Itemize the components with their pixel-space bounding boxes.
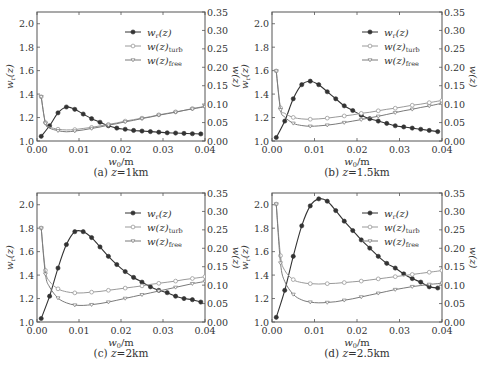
filled-circle-marker <box>81 112 85 116</box>
triangle-marker <box>410 285 414 288</box>
series-free <box>39 96 207 133</box>
filled-circle-marker <box>39 134 43 138</box>
y-right-tick-label: 0.30 <box>444 25 465 36</box>
filled-circle-marker <box>368 30 372 34</box>
chart-panel-a: 0.000.010.020.030.041.01.21.41.61.82.00.… <box>4 7 242 179</box>
filled-circle-marker <box>64 243 68 247</box>
legend-label-wr: wr(z) <box>147 27 172 40</box>
filled-circle-marker <box>199 300 203 304</box>
x-tick-label: 0.02 <box>110 325 131 336</box>
legend: wr(z)w(z)turbw(z)free <box>125 27 183 68</box>
triangle-marker <box>393 111 397 114</box>
y-right-tick-label: 0.25 <box>207 43 228 54</box>
y-right-tick-label: 0.05 <box>444 117 465 128</box>
filled-circle-marker <box>291 97 295 101</box>
open-circle-marker <box>123 286 127 290</box>
filled-circle-marker <box>182 296 186 300</box>
plot-frame <box>37 193 205 322</box>
plot-frame <box>272 12 442 141</box>
y-left-tick-label: 1.8 <box>19 223 34 234</box>
y-left-tick-label: 1.8 <box>254 42 269 53</box>
panel-caption: (d) z=2.5km <box>324 347 390 359</box>
legend-label-free: w(z)free <box>384 55 419 68</box>
x-tick-label: 0.01 <box>68 144 89 155</box>
filled-circle-marker <box>393 124 397 128</box>
series-wr <box>274 79 440 139</box>
panel-caption: (a) z=1km <box>93 166 148 178</box>
open-circle-marker <box>191 277 195 281</box>
figure-2x2-grid: 0.000.010.020.030.041.01.21.41.61.82.00.… <box>0 0 480 367</box>
filled-circle-marker <box>56 111 60 115</box>
x-tick-label: 0.03 <box>152 144 173 155</box>
triangle-marker <box>427 105 431 108</box>
y-right-tick-label: 0.10 <box>444 99 465 110</box>
open-circle-marker <box>174 279 178 283</box>
triangle-marker <box>342 121 346 124</box>
y-left-tick-label: 2.0 <box>254 199 269 210</box>
chart-panel-c: 0.000.010.020.030.041.01.21.41.61.82.00.… <box>4 188 242 360</box>
y-right-tick-label: 0.00 <box>444 136 465 147</box>
triangle-marker <box>90 303 94 306</box>
y-right-tick-label: 0.10 <box>444 280 465 291</box>
y-right-tick-label: 0.05 <box>207 117 228 128</box>
open-circle-marker <box>325 282 329 286</box>
triangle-marker <box>342 299 346 302</box>
triangle-marker <box>410 108 414 111</box>
filled-circle-marker <box>148 285 152 289</box>
y-right-tick-label: 0.00 <box>444 317 465 328</box>
y-right-tick-label: 0.20 <box>444 62 465 73</box>
open-circle-marker <box>427 101 431 105</box>
triangle-marker <box>393 288 397 291</box>
y-left-tick-label: 1.6 <box>19 65 34 76</box>
filled-circle-marker <box>283 288 287 292</box>
open-circle-marker <box>291 278 295 282</box>
x-tick-label: 0.03 <box>389 325 410 336</box>
filled-circle-marker <box>402 125 406 129</box>
filled-circle-marker <box>308 204 312 208</box>
filled-circle-marker <box>419 127 423 131</box>
triangle-marker <box>308 125 312 128</box>
y-right-tick-label: 0.30 <box>207 25 228 36</box>
open-circle-marker <box>203 275 207 279</box>
filled-circle-marker <box>325 90 329 94</box>
y-right-tick-label: 0.35 <box>207 188 228 199</box>
filled-circle-marker <box>317 83 321 87</box>
filled-circle-marker <box>427 128 431 132</box>
triangle-marker <box>325 301 329 304</box>
open-circle-marker <box>410 273 414 277</box>
open-circle-marker <box>342 281 346 285</box>
y-left-axis-label: wr(z) <box>4 64 17 89</box>
y-left-tick-label: 1.4 <box>19 270 34 281</box>
legend-label-turb: w(z)turb <box>147 222 183 235</box>
open-circle-marker <box>157 281 161 285</box>
triangle-marker <box>123 297 127 300</box>
filled-circle-marker <box>342 104 346 108</box>
open-circle-marker <box>359 279 363 283</box>
open-circle-marker <box>73 291 77 295</box>
y-right-tick-label: 0.20 <box>444 243 465 254</box>
open-circle-marker <box>279 254 283 258</box>
legend-label-turb: w(z)turb <box>147 41 183 54</box>
y-left-tick-label: 1.8 <box>254 223 269 234</box>
open-circle-marker <box>140 284 144 288</box>
filled-circle-marker <box>300 224 304 228</box>
triangle-marker <box>73 304 77 307</box>
filled-circle-marker <box>199 132 203 136</box>
triangle-marker <box>291 122 295 125</box>
filled-circle-marker <box>90 235 94 239</box>
filled-circle-marker <box>274 135 278 139</box>
triangle-marker <box>131 59 135 62</box>
chart-canvas: 0.000.010.020.030.041.01.21.41.61.82.00.… <box>0 0 480 367</box>
series-line <box>276 204 442 303</box>
triangle-marker <box>73 130 77 133</box>
x-tick-label: 0.03 <box>389 144 410 155</box>
plot-frame <box>272 193 442 322</box>
y-left-axis-label: wr(z) <box>239 245 252 270</box>
y-left-tick-label: 2.0 <box>254 18 269 29</box>
open-circle-marker <box>308 117 312 121</box>
triangle-marker <box>368 240 372 243</box>
legend-label-turb: w(z)turb <box>384 41 420 54</box>
y-right-tick-label: 0.20 <box>207 62 228 73</box>
series-line <box>276 71 442 119</box>
series-turb <box>274 69 444 121</box>
